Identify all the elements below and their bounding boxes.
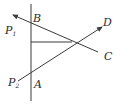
geometry-diagram: B P1 D C P2 A <box>0 0 120 111</box>
label-p2-sub: 2 <box>14 82 19 89</box>
label-p1: P1 <box>4 24 16 37</box>
label-c: C <box>104 50 113 63</box>
label-p1-sub: 1 <box>12 30 16 37</box>
label-b: B <box>32 12 41 25</box>
label-p2: P2 <box>7 76 19 89</box>
ray-c-to-p1 <box>13 15 98 52</box>
label-a: A <box>33 78 42 91</box>
label-d: D <box>102 16 112 29</box>
